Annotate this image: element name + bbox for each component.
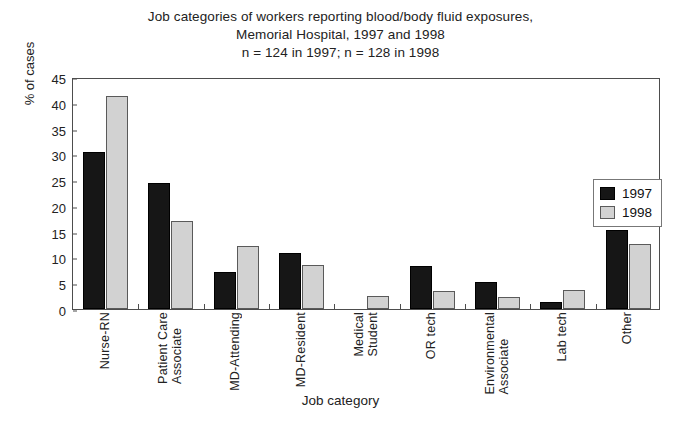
x-category-label-line: OR tech xyxy=(424,312,438,359)
bar-1997 xyxy=(83,152,105,309)
bar-1998 xyxy=(237,246,259,309)
x-category-label-line: Lab tech xyxy=(555,312,569,362)
bar-1997 xyxy=(148,183,170,309)
legend-item-1997: 1997 xyxy=(600,184,652,203)
x-category-label: Nurse-RN xyxy=(72,312,137,390)
legend-label-1997: 1997 xyxy=(622,186,652,201)
y-tick-label: 25 xyxy=(32,175,73,190)
bar-group xyxy=(204,79,269,309)
plot-area: 051015202530354045 1997 1998 xyxy=(72,78,660,310)
x-tick-mark xyxy=(334,304,335,309)
bar-group xyxy=(269,79,334,309)
y-tick-label: 20 xyxy=(32,200,73,215)
bar-1997 xyxy=(279,253,301,309)
bar-1998 xyxy=(498,297,520,309)
bar-1997 xyxy=(410,266,432,309)
chart-legend: 1997 1998 xyxy=(593,179,662,227)
chart-title-line-3: n = 124 in 1997; n = 128 in 1998 xyxy=(0,44,681,62)
bars-layer xyxy=(73,79,659,309)
bar-1998 xyxy=(302,265,324,309)
x-axis-title: Job category xyxy=(0,393,681,408)
legend-swatch-1998 xyxy=(600,206,615,219)
x-tick-mark xyxy=(138,304,139,309)
x-tick-mark xyxy=(596,304,597,309)
x-tick-mark xyxy=(204,304,205,309)
x-category-label-line: Patient Care xyxy=(156,312,170,384)
y-tick-label: 30 xyxy=(32,149,73,164)
bar-1998 xyxy=(629,244,651,309)
x-category-label-line: Medical xyxy=(352,312,366,357)
bar-chart-figure: Job categories of workers reporting bloo… xyxy=(0,0,681,437)
chart-title: Job categories of workers reporting bloo… xyxy=(0,8,681,62)
y-tick-label: 10 xyxy=(32,252,73,267)
x-tick-mark xyxy=(465,304,466,309)
x-category-label: MD-Resident xyxy=(268,312,333,390)
x-tick-mark xyxy=(400,304,401,309)
bar-1998 xyxy=(433,291,455,309)
bar-1997 xyxy=(214,272,236,309)
x-category-label-line: Student xyxy=(366,312,380,357)
y-tick-label: 40 xyxy=(32,97,73,112)
x-category-label-line: Associate xyxy=(170,312,184,384)
legend-label-1998: 1998 xyxy=(622,205,652,220)
bar-group xyxy=(465,79,530,309)
x-category-label: MD-Attending xyxy=(203,312,268,390)
x-category-label-line: Nurse-RN xyxy=(98,312,112,369)
bar-group xyxy=(138,79,203,309)
y-tick-label: 5 xyxy=(32,278,73,293)
bar-1998 xyxy=(106,96,128,309)
bar-1998 xyxy=(171,221,193,309)
x-category-label: OR tech xyxy=(399,312,464,390)
x-category-label-line: Associate xyxy=(497,312,511,395)
x-category-label-line: Other xyxy=(620,312,634,344)
chart-title-line-1: Job categories of workers reporting bloo… xyxy=(0,8,681,26)
x-category-label: EnvironmentalAssociate xyxy=(464,312,529,390)
y-tick-label: 0 xyxy=(32,304,73,319)
bar-1997 xyxy=(540,302,562,309)
x-category-label: Other xyxy=(595,312,660,390)
x-category-label: Patient CareAssociate xyxy=(137,312,202,390)
x-category-label: Lab tech xyxy=(529,312,594,390)
x-category-label-line: Environmental xyxy=(483,312,497,395)
bar-1998 xyxy=(563,290,585,309)
x-tick-mark xyxy=(269,304,270,309)
y-tick-label: 45 xyxy=(32,72,73,87)
bar-1997 xyxy=(475,282,497,309)
x-category-label-line: MD-Attending xyxy=(228,312,242,391)
x-tick-mark xyxy=(530,304,531,309)
y-tick-label: 15 xyxy=(32,226,73,241)
chart-title-line-2: Memorial Hospital, 1997 and 1998 xyxy=(0,26,681,44)
bar-group xyxy=(400,79,465,309)
bar-group xyxy=(334,79,399,309)
bar-1997 xyxy=(606,230,628,309)
legend-swatch-1997 xyxy=(600,187,615,200)
x-axis-category-labels: Nurse-RNPatient CareAssociateMD-Attendin… xyxy=(72,312,660,392)
x-category-label-line: MD-Resident xyxy=(294,312,308,387)
legend-item-1998: 1998 xyxy=(600,203,652,222)
x-category-label: MedicalStudent xyxy=(333,312,398,390)
bar-group xyxy=(73,79,138,309)
bar-group xyxy=(530,79,595,309)
y-tick-label: 35 xyxy=(32,123,73,138)
bar-1998 xyxy=(367,296,389,309)
